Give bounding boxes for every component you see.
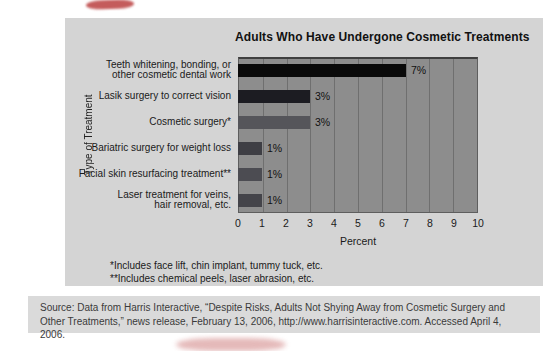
bar-rows: Teeth whitening, bonding, or other cosme… <box>65 57 478 213</box>
bar-track: 1% <box>238 161 478 187</box>
value-label: 3% <box>315 116 330 128</box>
x-tick-label: 5 <box>355 217 361 229</box>
x-tick-label: 6 <box>379 217 385 229</box>
red-pen-mark-top <box>86 0 134 10</box>
red-pen-mark-bottom <box>176 338 286 351</box>
x-tick-label: 7 <box>403 217 409 229</box>
bar-row: Teeth whitening, bonding, or other cosme… <box>65 57 478 83</box>
footnotes: *Includes face lift, chin implant, tummy… <box>110 260 323 285</box>
x-tick-label: 4 <box>331 217 337 229</box>
bar-track: 3% <box>238 109 478 135</box>
bar <box>238 142 262 155</box>
x-tick-label: 2 <box>283 217 289 229</box>
x-tick-label: 1 <box>259 217 265 229</box>
bar-track: 3% <box>238 83 478 109</box>
value-label: 3% <box>315 90 330 102</box>
category-label: Bariatric surgery for weight loss <box>65 143 238 154</box>
bar-row: Bariatric surgery for weight loss1% <box>65 135 478 161</box>
x-tick-label: 8 <box>427 217 433 229</box>
figure-panel: Adults Who Have Undergone Cosmetic Treat… <box>65 18 543 286</box>
category-label: Lasik surgery to correct vision <box>65 91 238 102</box>
category-label: Cosmetic surgery* <box>65 117 238 128</box>
chart-title: Adults Who Have Undergone Cosmetic Treat… <box>235 30 530 44</box>
bar-track: 1% <box>238 135 478 161</box>
source-text: Source: Data from Harris Interactive, “D… <box>40 302 505 340</box>
value-label: 7% <box>411 64 426 76</box>
x-tick-label: 10 <box>472 217 484 229</box>
bar <box>238 168 262 181</box>
x-axis-label: Percent <box>238 235 478 247</box>
value-label: 1% <box>267 168 282 180</box>
value-label: 1% <box>267 194 282 206</box>
category-label: Laser treatment for veins, hair removal,… <box>65 190 238 211</box>
footnote-1: *Includes face lift, chin implant, tummy… <box>110 260 323 273</box>
bar <box>238 64 406 77</box>
value-label: 1% <box>267 142 282 154</box>
bar-row: Facial skin resurfacing treatment**1% <box>65 161 478 187</box>
bar-row: Lasik surgery to correct vision3% <box>65 83 478 109</box>
category-label: Facial skin resurfacing treatment** <box>65 169 238 180</box>
x-tick-label: 0 <box>235 217 241 229</box>
x-ticks: 012345678910 <box>238 217 478 230</box>
bar <box>238 90 310 103</box>
bar <box>238 194 262 207</box>
bar-track: 7% <box>238 57 478 83</box>
category-label: Teeth whitening, bonding, or other cosme… <box>65 60 238 81</box>
footnote-2: **Includes chemical peels, laser abrasio… <box>110 273 323 286</box>
bar <box>238 116 310 129</box>
bar-row: Cosmetic surgery*3% <box>65 109 478 135</box>
bar-track: 1% <box>238 187 478 213</box>
x-tick-label: 9 <box>451 217 457 229</box>
source-band: Source: Data from Harris Interactive, “D… <box>28 296 540 333</box>
bar-row: Laser treatment for veins, hair removal,… <box>65 187 478 213</box>
x-tick-label: 3 <box>307 217 313 229</box>
